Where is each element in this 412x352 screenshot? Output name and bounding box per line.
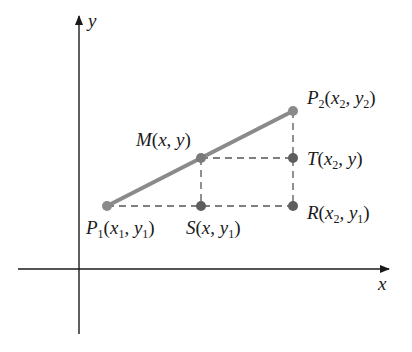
label-s: S(x, y1) <box>186 217 241 241</box>
label-t: T(x2, y) <box>307 148 363 172</box>
label-p2: P2(x2, y2) <box>306 87 376 111</box>
point-p2 <box>288 106 298 116</box>
point-r <box>288 201 298 211</box>
point-s <box>196 201 206 211</box>
point-p1 <box>102 201 112 211</box>
midpoint-diagram: y x P1(x1, y1) S(x, y1) M(x, y) P2(x2, y… <box>0 0 412 352</box>
label-m: M(x, y) <box>135 129 191 151</box>
label-p1: P1(x1, y1) <box>85 217 155 241</box>
point-t <box>288 153 298 163</box>
y-axis-label: y <box>86 10 97 31</box>
x-axis-label: x <box>377 273 387 294</box>
label-r: R(x2, y1) <box>306 202 370 226</box>
point-m <box>196 153 206 163</box>
